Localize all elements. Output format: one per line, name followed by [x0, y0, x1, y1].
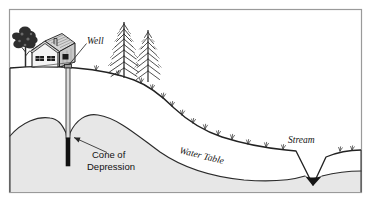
- groundwater-cross-section-svg: Well Cone of Depression Water Table Stre…: [0, 0, 371, 209]
- diagram-canvas: Well Cone of Depression Water Table Stre…: [0, 0, 371, 209]
- cone-of-depression-label-line2: Depression: [87, 161, 135, 172]
- cone-of-depression-label-line1: Cone of: [92, 149, 126, 160]
- well-label: Well: [87, 36, 104, 46]
- well-screen: [66, 138, 70, 166]
- stream-label: Stream: [288, 135, 315, 145]
